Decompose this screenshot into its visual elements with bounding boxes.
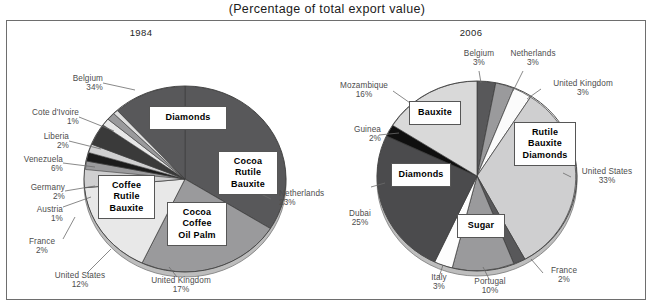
label-united-kingdom-2006: United Kingdom 3% <box>541 79 625 98</box>
chart-panel-1984: 1984 <box>7 21 327 299</box>
callout-diamonds-1984: Diamonds <box>149 106 227 130</box>
label-liberia-1984: Liberia 2% <box>7 132 69 151</box>
callout-cocoa-rutile-bauxite-1984: Cocoa Rutile Bauxite <box>218 151 278 195</box>
callout-coffee-rutile-bauxite-1984: Coffee Rutile Bauxite <box>98 175 155 219</box>
label-netherlands-2006: Netherlands 3% <box>497 49 569 68</box>
label-united-states-2006: United States 33% <box>571 167 643 186</box>
callout-rutile-bauxite-diamonds-2006: Rutile Bauxite Diamonds <box>514 122 576 166</box>
callout-bauxite-2006: Bauxite <box>409 101 461 125</box>
label-france-2006: France 2% <box>539 266 589 285</box>
label-portugal-2006: Portugal 10% <box>461 277 519 296</box>
label-germany-1984: Germany 2% <box>7 183 65 202</box>
label-venezuela-1984: Venezuela 6% <box>7 155 63 174</box>
label-italy-2006: Italy 3% <box>415 273 463 292</box>
label-cote-divoire-1984: Cote d'Ivoire 1% <box>7 108 79 127</box>
callout-sugar-2006: Sugar <box>457 214 505 238</box>
label-austria-1984: Austria 1% <box>7 205 63 224</box>
chart-panel-2006: 2006 <box>327 21 647 299</box>
figure-frame: 1984 <box>6 20 646 300</box>
page-title: (Percentage of total export value) <box>0 0 654 19</box>
label-belgium-1984: Belgium 34% <box>23 74 103 93</box>
label-guinea-2006: Guinea 2% <box>327 125 381 144</box>
label-mozambique-2006: Mozambique 16% <box>327 81 401 100</box>
label-france-1984: France 2% <box>17 237 67 256</box>
label-united-kingdom-1984: United Kingdom 17% <box>139 276 223 295</box>
label-dubai-2006: Dubai 25% <box>335 209 385 228</box>
callout-diamonds-2006: Diamonds <box>391 163 451 187</box>
label-united-states-1984: United States 12% <box>41 271 119 290</box>
callout-cocoa-coffee-oil-palm-1984: Cocoa Coffee Oil Palm <box>167 202 227 246</box>
